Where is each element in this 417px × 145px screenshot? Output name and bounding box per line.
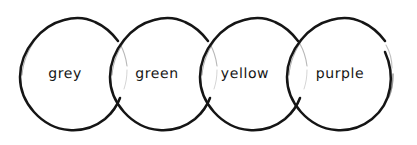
circle-label-grey: grey [48,67,82,81]
circle-label-yellow: yellow [221,67,269,81]
circle-label-green: green [135,67,178,81]
circle-label-purple: purple [316,67,365,81]
overlapping-circles-diagram: grey green yellow purple [0,0,417,145]
